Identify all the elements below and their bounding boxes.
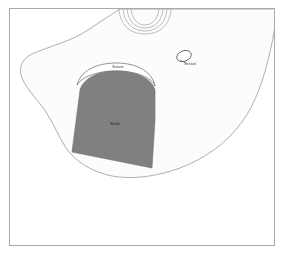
shaded-dome-region (72, 71, 155, 168)
figure-root: Suture Shale Vessel (0, 0, 286, 256)
suture-label: Suture (112, 65, 124, 69)
vessel-label: Vessel (184, 62, 196, 66)
diagram-canvas: Suture Shale Vessel (0, 0, 286, 256)
shaded-region-label: Shale (110, 122, 120, 126)
